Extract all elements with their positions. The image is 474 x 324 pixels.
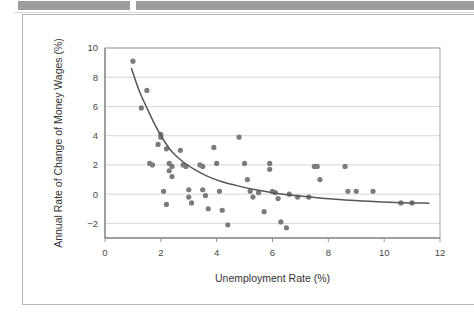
x-tick-label-8: 8 [326, 247, 331, 258]
data-point [139, 105, 144, 110]
data-point [267, 167, 272, 172]
x-tick-label-12: 12 [435, 247, 446, 258]
data-point [150, 162, 155, 167]
data-point [164, 202, 169, 207]
data-point [169, 164, 174, 169]
data-point [169, 174, 174, 179]
y-axis-tick-labels: −20246810 [87, 42, 98, 228]
y-tick-label--2: −2 [87, 218, 98, 229]
data-point [203, 193, 208, 198]
x-tick-label-6: 6 [270, 247, 275, 258]
data-point [225, 222, 230, 227]
x-tick-label-10: 10 [379, 247, 390, 258]
data-point [354, 189, 359, 194]
data-point [200, 164, 205, 169]
x-axis-title: Unemployment Rate (%) [215, 272, 330, 284]
data-point [144, 88, 149, 93]
data-point [220, 208, 225, 213]
data-point [214, 161, 219, 166]
data-point [242, 161, 247, 166]
data-point [167, 168, 172, 173]
y-tick-label-0: 0 [93, 189, 98, 200]
x-tick-label-0: 0 [102, 247, 107, 258]
y-tick-label-10: 10 [87, 42, 98, 53]
scatter-chart: −20246810 024681012 Unemployment Rate (%… [0, 0, 474, 324]
plot-frame-group [105, 48, 440, 238]
gridlines-group [105, 48, 440, 223]
y-tick-label-6: 6 [93, 101, 98, 112]
data-points-group [130, 59, 414, 231]
data-point [200, 187, 205, 192]
data-point [155, 142, 160, 147]
x-tick-label-2: 2 [158, 247, 163, 258]
data-point [275, 196, 280, 201]
data-point [206, 206, 211, 211]
data-point [262, 209, 267, 214]
chart-stage: −20246810 024681012 Unemployment Rate (%… [0, 0, 474, 324]
y-tick-label-8: 8 [93, 72, 98, 83]
x-tick-label-4: 4 [214, 247, 219, 258]
data-point [267, 161, 272, 166]
data-point [186, 187, 191, 192]
data-point [315, 164, 320, 169]
data-point [189, 200, 194, 205]
data-point [250, 194, 255, 199]
data-point [186, 194, 191, 199]
data-point [245, 177, 250, 182]
data-point [161, 189, 166, 194]
y-tick-label-4: 4 [93, 130, 98, 141]
data-point [278, 219, 283, 224]
data-point [345, 189, 350, 194]
data-point [236, 135, 241, 140]
data-point [130, 59, 135, 64]
data-point [342, 164, 347, 169]
data-point [370, 189, 375, 194]
tick-marks-group [105, 238, 440, 242]
plot-frame [105, 48, 440, 238]
data-point [317, 177, 322, 182]
data-point [178, 148, 183, 153]
data-point [211, 145, 216, 150]
data-point [284, 225, 289, 230]
y-axis-title: Annual Rate of Change of Money Wages (%) [52, 38, 64, 248]
y-tick-label-2: 2 [93, 159, 98, 170]
data-point [217, 189, 222, 194]
x-axis-tick-labels: 024681012 [102, 247, 445, 258]
